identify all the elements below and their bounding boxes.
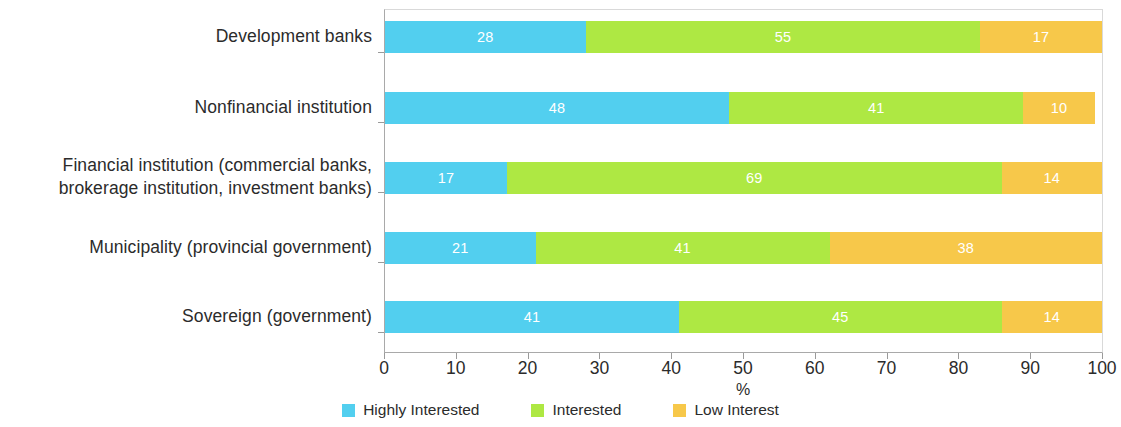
bar-segment: 38: [830, 232, 1102, 264]
x-tick-label: 0: [379, 358, 389, 379]
bar-segment-value: 21: [452, 241, 469, 256]
legend-swatch-icon: [673, 404, 686, 417]
y-tick-mark: [378, 192, 384, 193]
bar-segment: 28: [385, 21, 586, 53]
x-tick-label: 70: [877, 358, 896, 379]
legend-swatch-icon: [342, 404, 355, 417]
x-tick-label: 60: [805, 358, 824, 379]
x-tick-label: 10: [446, 358, 465, 379]
y-tick-mark: [378, 332, 384, 333]
bar-segment: 41: [729, 92, 1023, 124]
category-label-line: brokerage institution, investment banks): [0, 177, 372, 200]
x-tick-label: 90: [1020, 358, 1039, 379]
bar-segment: 45: [679, 301, 1002, 333]
legend-label: Low Interest: [694, 401, 778, 419]
bar-segment-value: 45: [832, 310, 849, 325]
bar-segment-value: 69: [746, 171, 763, 186]
bar-segment: 55: [586, 21, 980, 53]
bar-segment-value: 41: [524, 310, 541, 325]
bar-segment: 41: [385, 301, 679, 333]
bar-segment-value: 55: [775, 30, 792, 45]
bar-row: 285517: [385, 21, 1102, 53]
category-label: Financial institution (commercial banks,…: [0, 154, 372, 200]
bar-segment-value: 14: [1044, 310, 1061, 325]
category-axis-labels: Development banksNonfinancial institutio…: [0, 0, 372, 353]
bar-segment-value: 17: [1033, 30, 1050, 45]
x-tick-label: 40: [661, 358, 680, 379]
category-label-line: Development banks: [0, 25, 372, 48]
bar-segment-value: 38: [957, 241, 974, 256]
bar-row: 214138: [385, 232, 1102, 264]
legend-item[interactable]: Highly Interested: [342, 401, 479, 419]
bar-segment-value: 41: [868, 101, 885, 116]
bar-segment: 21: [385, 232, 536, 264]
category-label-line: Municipality (provincial government): [0, 236, 372, 259]
x-tick-label: 30: [590, 358, 609, 379]
bar-segment-value: 10: [1051, 101, 1068, 116]
x-tick-label: 100: [1087, 358, 1116, 379]
y-tick-mark: [378, 52, 384, 53]
category-label: Nonfinancial institution: [0, 96, 372, 119]
plot-area: 285517484110176914214138414514: [384, 9, 1103, 353]
category-label-line: Sovereign (government): [0, 305, 372, 328]
category-label: Sovereign (government): [0, 305, 372, 328]
bar-segment: 14: [1002, 301, 1102, 333]
bar-row: 484110: [385, 92, 1102, 124]
bar-row: 414514: [385, 301, 1102, 333]
bar-segment-value: 41: [674, 241, 691, 256]
y-tick-mark: [378, 262, 384, 263]
x-tick-label: 80: [949, 358, 968, 379]
category-label: Municipality (provincial government): [0, 236, 372, 259]
x-tick-label: 20: [518, 358, 537, 379]
bar-segment-value: 14: [1044, 171, 1061, 186]
bar-segment: 14: [1002, 162, 1102, 194]
stacked-bar-chart: Development banksNonfinancial institutio…: [0, 0, 1121, 427]
legend-item[interactable]: Interested: [531, 401, 621, 419]
y-tick-mark: [378, 122, 384, 123]
chart-legend: Highly InterestedInterestedLow Interest: [0, 401, 1121, 419]
bar-segment-value: 17: [438, 171, 455, 186]
legend-label: Interested: [552, 401, 621, 419]
bar-segment: 41: [536, 232, 830, 264]
category-label-line: Financial institution (commercial banks,: [0, 154, 372, 177]
category-label: Development banks: [0, 25, 372, 48]
legend-item[interactable]: Low Interest: [673, 401, 778, 419]
bar-segment: 48: [385, 92, 729, 124]
legend-label: Highly Interested: [363, 401, 479, 419]
bar-segment-value: 28: [477, 30, 494, 45]
bar-segment: 69: [507, 162, 1002, 194]
legend-swatch-icon: [531, 404, 544, 417]
x-axis-title: %: [736, 381, 750, 399]
bar-segment: 10: [1023, 92, 1095, 124]
category-label-line: Nonfinancial institution: [0, 96, 372, 119]
bar-row: 176914: [385, 162, 1102, 194]
bar-segment-value: 48: [549, 101, 566, 116]
bar-segment: 17: [980, 21, 1102, 53]
bar-segment: 17: [385, 162, 507, 194]
x-tick-label: 50: [733, 358, 752, 379]
